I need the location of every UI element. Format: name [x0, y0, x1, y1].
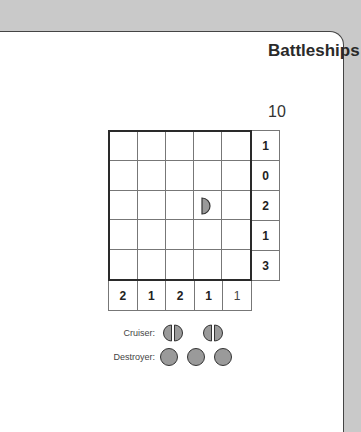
column-clue: 1 — [195, 281, 224, 311]
puzzle-number: 10 — [268, 103, 286, 121]
grid-cell[interactable] — [166, 161, 194, 190]
grid-cell[interactable] — [110, 220, 138, 249]
grid-cell[interactable] — [194, 250, 222, 279]
row-clue: 1 — [252, 221, 280, 251]
grid-cell[interactable] — [222, 132, 250, 161]
row-clue: 3 — [252, 251, 280, 281]
destroyer-ship-icon — [158, 346, 180, 368]
grid-cell[interactable] — [110, 250, 138, 279]
destroyer-ship-icon — [212, 346, 234, 368]
grid-cell[interactable] — [110, 191, 138, 220]
column-clue: 2 — [166, 281, 195, 311]
grid-cell[interactable] — [110, 132, 138, 161]
grid-cell[interactable] — [222, 191, 250, 220]
cruiser-ship-icon — [199, 322, 227, 344]
grid-cell-ship[interactable] — [194, 191, 222, 220]
page-title: Battleships — [268, 41, 360, 61]
grid-cell[interactable] — [110, 161, 138, 190]
grid-cell[interactable] — [194, 220, 222, 249]
grid-cell[interactable] — [194, 132, 222, 161]
ship-end-right-icon — [194, 191, 222, 221]
grid-cell[interactable] — [138, 220, 166, 249]
grid-cell[interactable] — [138, 250, 166, 279]
grid-cell[interactable] — [222, 220, 250, 249]
grid-cell[interactable] — [166, 250, 194, 279]
grid-cell[interactable] — [166, 132, 194, 161]
grid-cell[interactable] — [138, 191, 166, 220]
row-clue: 0 — [252, 161, 280, 191]
row-clues: 1 0 2 1 3 — [252, 130, 280, 281]
grid-cell[interactable] — [222, 161, 250, 190]
cruiser-label: Cruiser: — [75, 328, 155, 338]
column-clues: 2 1 2 1 1 — [108, 281, 252, 311]
destroyer-label: Destroyer: — [75, 352, 155, 362]
grid-cell[interactable] — [138, 161, 166, 190]
grid-cell[interactable] — [194, 161, 222, 190]
row-clue: 2 — [252, 191, 280, 221]
battleship-grid — [108, 130, 252, 281]
grid-cell[interactable] — [222, 250, 250, 279]
column-clue: 2 — [108, 281, 138, 311]
row-clue: 1 — [252, 130, 280, 161]
destroyer-ship-icon — [185, 346, 207, 368]
grid-cell[interactable] — [166, 220, 194, 249]
column-clue: 1 — [138, 281, 167, 311]
cruiser-ship-icon — [159, 322, 187, 344]
grid-cell[interactable] — [166, 191, 194, 220]
column-clue: 1 — [223, 281, 252, 311]
grid-cell[interactable] — [138, 132, 166, 161]
